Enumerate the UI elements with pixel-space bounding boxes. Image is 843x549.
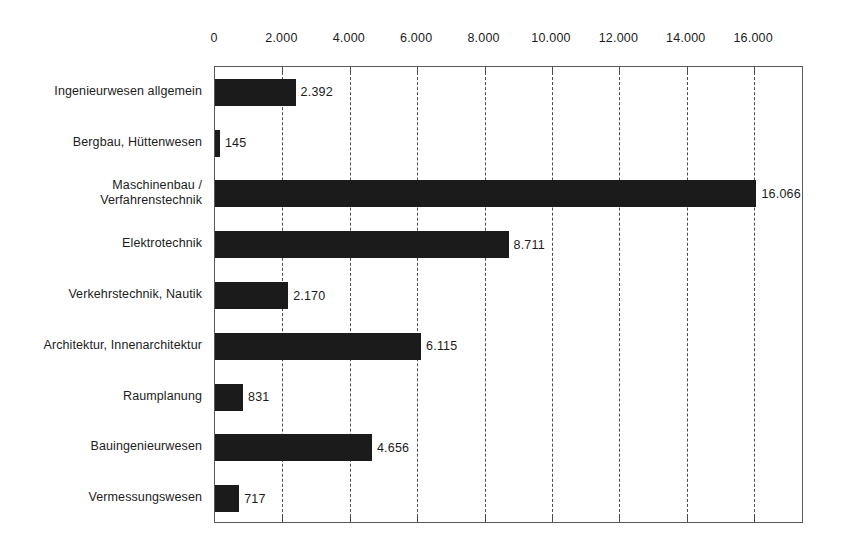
bar-value-label: 8.711 (514, 238, 545, 252)
bar-value-label: 6.115 (426, 339, 457, 353)
bar (215, 434, 372, 461)
bar-row: 717 (215, 485, 802, 512)
bar (215, 282, 288, 309)
bar-value-label: 145 (225, 136, 246, 150)
x-axis-tick-labels: 02.0004.0006.0008.00010.00012.00014.0001… (0, 30, 843, 48)
category-label: Maschinenbau / Verfahrenstechnik (100, 168, 208, 219)
bar-row: 2.392 (215, 79, 802, 106)
bar-value-label: 4.656 (377, 441, 409, 455)
bar-value-label: 717 (244, 492, 265, 506)
category-label: Verkehrstechnik, Nautik (68, 269, 208, 320)
x-tick-label-4000: 4.000 (333, 30, 365, 46)
bar (215, 485, 239, 512)
x-tick-label-12000: 12.000 (599, 30, 638, 46)
bar (215, 384, 243, 411)
bar-row: 6.115 (215, 333, 802, 360)
category-label: Bergbau, Hüttenwesen (73, 117, 208, 168)
x-tick-label-0: 0 (210, 30, 217, 46)
bar-value-label: 16.066 (761, 187, 800, 201)
bar-row: 8.711 (215, 231, 802, 258)
x-tick-label-6000: 6.000 (400, 30, 432, 46)
bar (215, 333, 421, 360)
x-tick-label-2000: 2.000 (265, 30, 297, 46)
bar-chart: 02.0004.0006.0008.00010.00012.00014.0001… (0, 0, 843, 549)
x-tick-label-16000: 16.000 (733, 30, 772, 46)
y-axis-category-labels: Ingenieurwesen allgemeinBergbau, Hüttenw… (0, 66, 208, 523)
bar-row: 2.170 (215, 282, 802, 309)
bar (215, 130, 220, 157)
bar (215, 79, 296, 106)
bar-row: 4.656 (215, 434, 802, 461)
plot-area: 2.39214516.0668.7112.1706.1158314.656717 (214, 66, 803, 523)
category-label: Architektur, Innenarchitektur (43, 320, 208, 371)
bar-value-label: 2.170 (293, 289, 325, 303)
x-tick-label-10000: 10.000 (531, 30, 570, 46)
bar-value-label: 2.392 (301, 85, 333, 99)
bar (215, 231, 509, 258)
bar-row: 16.066 (215, 180, 802, 207)
x-tick-label-8000: 8.000 (467, 30, 499, 46)
category-label: Elektrotechnik (122, 218, 208, 269)
bar (215, 180, 756, 207)
category-label: Raumplanung (123, 371, 208, 422)
bar-row: 145 (215, 130, 802, 157)
x-tick-label-14000: 14.000 (666, 30, 705, 46)
category-label: Vermessungswesen (89, 472, 208, 523)
bar-row: 831 (215, 384, 802, 411)
category-label: Ingenieurwesen allgemein (54, 66, 208, 117)
bar-value-label: 831 (248, 390, 269, 404)
category-label: Bauingenieurwesen (90, 421, 208, 472)
